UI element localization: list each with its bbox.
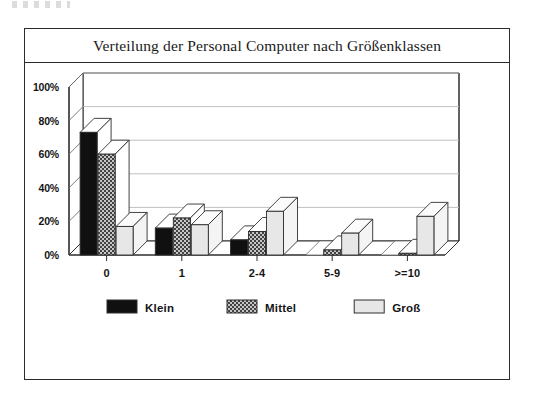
- x-axis-category-label: 2-4: [249, 267, 266, 279]
- y-axis-tick-label: 20%: [39, 215, 60, 227]
- legend-item-label: Mittel: [265, 302, 296, 314]
- plot-region: 0%20%40%60%80%100%012-45-9>=10 KleinMitt…: [25, 63, 509, 379]
- legend-group: KleinMittelGroß: [107, 300, 420, 314]
- title-band: Verteilung der Personal Computer nach Gr…: [25, 29, 509, 63]
- x-axis-category-label: 0: [103, 267, 109, 279]
- light-gray-swatch: [354, 300, 384, 313]
- y-axis-tick-label: 40%: [39, 182, 60, 194]
- figure-frame: Verteilung der Personal Computer nach Gr…: [24, 28, 510, 380]
- x-axis-category-label: >=10: [394, 267, 420, 279]
- x-axis-category-label: 1: [179, 267, 185, 279]
- y-axis-tick-label: 60%: [39, 148, 60, 160]
- scan-artifact: [12, 1, 70, 8]
- hatched-swatch: [227, 300, 257, 313]
- legend-item-groß: Groß: [354, 300, 420, 314]
- bar-chart: 0%20%40%60%80%100%012-45-9>=10 KleinMitt…: [25, 63, 509, 379]
- y-axis-tick-label: 0%: [44, 249, 60, 261]
- x-axis-category-label: 5-9: [324, 267, 341, 279]
- y-axis-tick-label: 80%: [39, 115, 60, 127]
- page-title: Verteilung der Personal Computer nach Gr…: [93, 37, 441, 55]
- y-axis-tick-label: 100%: [33, 81, 60, 93]
- legend-item-klein: Klein: [107, 300, 174, 314]
- legend-item-label: Groß: [392, 302, 420, 314]
- solid-black-swatch: [107, 300, 137, 313]
- legend-item-mittel: Mittel: [227, 300, 296, 314]
- legend-item-label: Klein: [145, 302, 174, 314]
